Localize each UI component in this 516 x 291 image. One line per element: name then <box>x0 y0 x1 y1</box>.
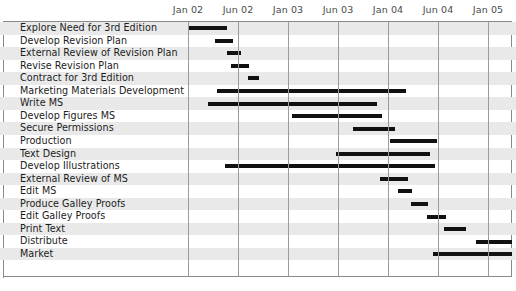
task-bar[interactable] <box>390 139 437 143</box>
gantt-row[interactable]: Produce Galley Proofs <box>0 198 516 211</box>
task-bar[interactable] <box>336 152 430 156</box>
task-bar[interactable] <box>292 114 382 118</box>
task-bar[interactable] <box>231 64 249 68</box>
task-label: Write MS <box>20 97 63 110</box>
task-label: Develop Figures MS <box>20 110 115 123</box>
task-label: Explore Need for 3rd Edition <box>20 22 157 35</box>
gantt-row[interactable]: Contract for 3rd Edition <box>0 72 516 85</box>
task-rows: Explore Need for 3rd EditionDevelop Revi… <box>0 22 516 277</box>
task-label: Market <box>20 248 53 261</box>
gantt-row[interactable]: Text Design <box>0 148 516 161</box>
task-bar[interactable] <box>208 102 377 106</box>
task-bar[interactable] <box>227 51 241 55</box>
gantt-row[interactable]: Develop Revision Plan <box>0 35 516 48</box>
task-bar[interactable] <box>433 252 512 256</box>
task-bar[interactable] <box>188 26 227 30</box>
task-label: Edit MS <box>20 185 56 198</box>
task-bar[interactable] <box>248 76 259 80</box>
task-bar[interactable] <box>398 189 412 193</box>
task-bar[interactable] <box>411 202 428 206</box>
axis-tick-label: Jan 02 <box>163 4 213 15</box>
gantt-row[interactable]: Explore Need for 3rd Edition <box>0 22 516 35</box>
task-bar[interactable] <box>476 240 512 244</box>
axis-tick-label: Jan 03 <box>263 4 313 15</box>
task-bar[interactable] <box>444 227 466 231</box>
gantt-row[interactable]: Revise Revision Plan <box>0 60 516 73</box>
gantt-row[interactable]: Secure Permissions <box>0 122 516 135</box>
axis-tick-label: Jan 04 <box>363 4 413 15</box>
gantt-row[interactable]: Develop Figures MS <box>0 110 516 123</box>
task-bar[interactable] <box>215 39 233 43</box>
gantt-row[interactable]: Write MS <box>0 97 516 110</box>
gantt-chart: Jan 02Jun 02Jan 03Jun 03Jan 04Jun 04Jan … <box>0 0 516 291</box>
task-label: Text Design <box>20 148 76 161</box>
task-label: Production <box>20 135 72 148</box>
gantt-row[interactable]: Edit MS <box>0 185 516 198</box>
axis-tick-label: Jun 04 <box>413 4 463 15</box>
task-label: Secure Permissions <box>20 122 114 135</box>
task-label: Contract for 3rd Edition <box>20 72 134 85</box>
task-label: Marketing Materials Development <box>20 85 184 98</box>
task-label: Distribute <box>20 235 68 248</box>
task-bar[interactable] <box>427 215 446 219</box>
gantt-row[interactable]: Edit Galley Proofs <box>0 210 516 223</box>
task-bar[interactable] <box>217 89 406 93</box>
gantt-row[interactable]: Production <box>0 135 516 148</box>
axis-tick-label: Jan 05 <box>463 4 513 15</box>
gantt-row[interactable]: External Review of MS <box>0 173 516 186</box>
task-label: External Review of Revision Plan <box>20 47 178 60</box>
timescale-header: Jan 02Jun 02Jan 03Jun 03Jan 04Jun 04Jan … <box>0 0 516 22</box>
axis-tick-label: Jun 02 <box>213 4 263 15</box>
task-label: Edit Galley Proofs <box>20 210 105 223</box>
gantt-row[interactable]: Marketing Materials Development <box>0 85 516 98</box>
task-label: External Review of MS <box>20 173 128 186</box>
gantt-row[interactable]: Print Text <box>0 223 516 236</box>
task-label: Print Text <box>20 223 65 236</box>
axis-tick-label: Jun 03 <box>313 4 363 15</box>
gantt-row[interactable]: Market <box>0 248 516 261</box>
task-bar[interactable] <box>353 127 395 131</box>
task-label: Develop Illustrations <box>20 160 120 173</box>
task-bar[interactable] <box>225 164 435 168</box>
gantt-row[interactable]: Distribute <box>0 235 516 248</box>
task-label: Revise Revision Plan <box>20 60 119 73</box>
task-bar[interactable] <box>380 177 408 181</box>
gantt-row[interactable]: Develop Illustrations <box>0 160 516 173</box>
gantt-row[interactable]: External Review of Revision Plan <box>0 47 516 60</box>
task-label: Produce Galley Proofs <box>20 198 125 211</box>
task-label: Develop Revision Plan <box>20 35 127 48</box>
